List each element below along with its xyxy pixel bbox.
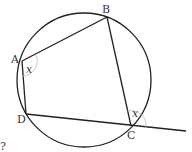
point-label-b: B xyxy=(102,3,110,16)
side-bc xyxy=(107,17,131,126)
point-label-a: A xyxy=(10,53,20,66)
side-ab xyxy=(22,17,107,61)
point-label-c: C xyxy=(127,129,135,142)
circumcircle xyxy=(17,13,151,147)
angle-label-c: x xyxy=(132,107,139,120)
cyclic-quadrilateral-diagram: A B C D x x ? xyxy=(0,0,192,152)
point-label-d: D xyxy=(17,113,26,126)
angle-label-a: x xyxy=(26,63,33,76)
side-dc-extended xyxy=(26,114,186,131)
stray-mark: ? xyxy=(0,140,6,152)
